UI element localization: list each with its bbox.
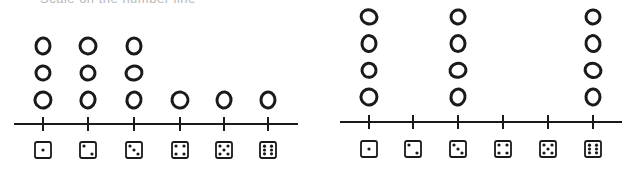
die-face-2-icon bbox=[405, 141, 421, 157]
data-mark bbox=[79, 90, 97, 109]
data-mark bbox=[451, 36, 465, 52]
data-mark bbox=[33, 90, 54, 111]
die-face-3-icon bbox=[126, 142, 142, 158]
dot-plot-1 bbox=[14, 37, 298, 158]
data-mark bbox=[359, 8, 379, 26]
die-face-3-icon bbox=[450, 141, 466, 157]
data-mark bbox=[127, 38, 141, 54]
data-mark bbox=[583, 61, 603, 79]
data-mark bbox=[216, 91, 232, 109]
data-mark bbox=[359, 87, 380, 108]
chart-title: Scale on the number line bbox=[40, 0, 196, 6]
die-face-5-icon bbox=[216, 142, 232, 158]
dot-plot-2 bbox=[340, 8, 622, 157]
data-mark bbox=[449, 62, 468, 79]
data-mark bbox=[80, 65, 96, 81]
die-face-1-icon bbox=[361, 141, 377, 157]
die-face-6-icon bbox=[260, 142, 276, 158]
data-mark bbox=[361, 62, 377, 78]
die-face-1-icon bbox=[35, 142, 51, 158]
data-mark bbox=[449, 88, 466, 107]
data-mark bbox=[171, 91, 190, 110]
die-face-6-icon bbox=[585, 141, 601, 157]
data-mark bbox=[80, 38, 97, 55]
die-face-4-icon bbox=[172, 142, 188, 158]
data-mark bbox=[35, 65, 51, 81]
die-face-2-icon bbox=[80, 142, 96, 158]
data-mark bbox=[585, 35, 601, 53]
data-mark bbox=[35, 37, 51, 54]
data-mark bbox=[125, 91, 142, 110]
data-mark bbox=[450, 9, 467, 26]
data-mark bbox=[585, 88, 600, 105]
data-mark bbox=[125, 64, 144, 81]
die-face-5-icon bbox=[540, 141, 556, 157]
data-mark bbox=[260, 91, 275, 108]
dot-plots-canvas bbox=[0, 0, 625, 169]
data-mark bbox=[361, 35, 377, 52]
data-mark bbox=[586, 9, 601, 24]
die-face-4-icon bbox=[495, 141, 511, 157]
